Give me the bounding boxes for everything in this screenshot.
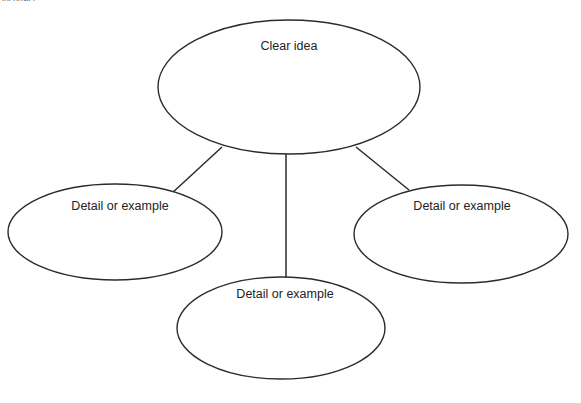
diagram-canvas: incorrect. Clear idea Detail or example … [0,0,581,403]
connector-central-to-right [356,147,409,190]
node-detail-left[interactable]: Detail or example [8,184,222,280]
node-detail-right[interactable]: Detail or example [354,185,568,283]
detail-bottom-label: Detail or example [236,287,333,301]
node-central-idea[interactable]: Clear idea [158,20,420,154]
detail-right-label: Detail or example [413,199,510,213]
detail-left-label: Detail or example [71,199,168,213]
central-idea-label: Clear idea [261,39,318,53]
node-detail-bottom[interactable]: Detail or example [177,277,385,379]
connector-central-to-left [171,147,222,194]
cluster-diagram: Clear idea Detail or example Detail or e… [0,0,581,403]
